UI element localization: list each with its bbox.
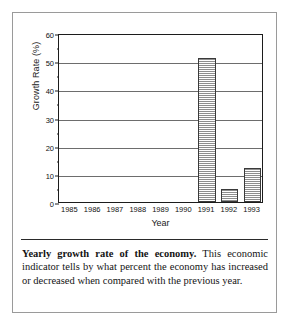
y-axis-minor-tick (57, 49, 60, 50)
y-axis-tick-label: 30 (46, 115, 54, 124)
y-axis-minor-tick (57, 105, 60, 106)
y-axis-minor-tick (57, 77, 60, 78)
bar (198, 58, 215, 202)
x-axis-tick-label: 1988 (129, 205, 146, 214)
x-axis-tick-labels: 198519861987198819891990199119921993 (58, 205, 263, 217)
x-axis-tick-label: 1991 (198, 205, 215, 214)
y-axis-major-tick (55, 119, 59, 120)
x-axis-tick-label: 1986 (84, 205, 101, 214)
caption-lead-text: Yearly growth rate of the economy. (22, 248, 196, 259)
gridline (59, 176, 262, 177)
figure-frame: Growth Rate (%) 0102030405060 1985198619… (12, 12, 277, 313)
y-axis-minor-tick (57, 189, 60, 190)
bar (244, 168, 261, 202)
x-axis-tick-label: 1990 (175, 205, 192, 214)
gridline (59, 148, 262, 149)
y-axis-major-tick (55, 63, 59, 64)
y-axis-tick-label: 20 (46, 143, 54, 152)
figure-caption: Yearly growth rate of the economy. This … (22, 247, 268, 287)
x-axis-tick-label: 1992 (220, 205, 237, 214)
x-axis-tick-label: 1989 (152, 205, 169, 214)
y-axis-tick-label: 60 (46, 31, 54, 40)
y-axis-tick-label: 0 (50, 200, 54, 209)
y-axis-tick-label: 40 (46, 87, 54, 96)
y-axis-minor-tick (57, 133, 60, 134)
x-axis-title: Year (58, 218, 263, 228)
y-axis-major-tick (55, 35, 59, 36)
plot-area: 0102030405060 (58, 34, 263, 203)
y-axis-major-tick (55, 175, 59, 176)
x-axis-tick-label: 1987 (107, 205, 124, 214)
gridline (59, 63, 262, 64)
y-axis-tick-label: 50 (46, 59, 54, 68)
caption-divider (21, 239, 268, 240)
y-axis-minor-tick (57, 161, 60, 162)
bar (221, 189, 238, 202)
chart-region: Growth Rate (%) 0102030405060 1985198619… (13, 13, 276, 233)
x-axis-tick-label: 1985 (61, 205, 78, 214)
gridline (59, 91, 262, 92)
y-axis-tick-label: 10 (46, 171, 54, 180)
y-axis-title: Growth Rate (%) (31, 21, 41, 131)
plot-inner: 0102030405060 (59, 35, 262, 202)
y-axis-major-tick (55, 91, 59, 92)
gridline (59, 120, 262, 121)
x-axis-tick-label: 1993 (243, 205, 260, 214)
y-axis-major-tick (55, 147, 59, 148)
